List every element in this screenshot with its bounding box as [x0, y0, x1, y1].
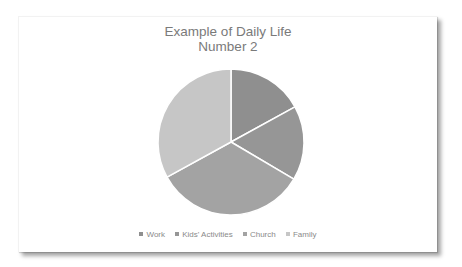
pie-chart — [19, 17, 437, 252]
legend-label: Work — [146, 230, 165, 239]
legend-marker-icon — [175, 232, 179, 236]
pie-slices — [158, 69, 304, 215]
chart-card: Example of Daily Life Number 2 Work Kids… — [18, 16, 437, 252]
legend-item-church: Church — [243, 230, 276, 239]
legend-marker-icon — [286, 232, 290, 236]
legend-item-family: Family — [286, 230, 317, 239]
legend-label: Kids' Activities — [182, 230, 232, 239]
legend-marker-icon — [139, 232, 143, 236]
legend-item-kids-activities: Kids' Activities — [175, 230, 232, 239]
legend-marker-icon — [243, 232, 247, 236]
legend-label: Family — [293, 230, 317, 239]
chart-legend: Work Kids' Activities Church Family — [19, 230, 437, 239]
legend-label: Church — [250, 230, 276, 239]
legend-item-work: Work — [139, 230, 165, 239]
